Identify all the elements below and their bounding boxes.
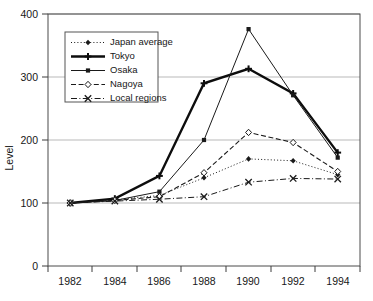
data-point-filled-diamond	[246, 156, 251, 162]
xtick-label-1984: 1984	[103, 275, 127, 287]
ytick-label-0: 0	[32, 260, 38, 272]
line-chart: 400 300 200 100 0 Level 1982 1984 1986 1…	[0, 0, 373, 301]
legend-label-local-regions: Local regions	[110, 92, 167, 103]
data-point-filled-square	[246, 27, 250, 31]
xtick-label-1990: 1990	[236, 275, 260, 287]
data-point-filled-square	[291, 93, 295, 97]
ytick-label-100: 100	[20, 197, 38, 209]
xtick-label-1994: 1994	[326, 275, 350, 287]
data-point-filled-diamond	[291, 158, 296, 164]
ytick-label-200: 200	[20, 134, 38, 146]
legend-label-nagoya: Nagoya	[110, 78, 143, 89]
xtick-label-1982: 1982	[58, 275, 82, 287]
data-point-open-diamond	[335, 168, 341, 174]
ytick-label-300: 300	[20, 71, 38, 83]
y-axis-title: Level	[3, 145, 15, 170]
legend-label-japan-average: Japan average	[110, 36, 173, 47]
legend: Japan average Tokyo Osaka Nagoya Local r…	[65, 32, 173, 103]
data-point-filled-square	[202, 138, 206, 142]
data-point-filled-square	[86, 68, 90, 72]
x-axis: 1982 1984 1986 1988 1990 1992 1994	[48, 266, 360, 287]
xtick-label-1992: 1992	[281, 275, 305, 287]
xtick-label-1986: 1986	[147, 275, 171, 287]
y-axis: 400 300 200 100 0	[20, 8, 48, 272]
legend-label-osaka: Osaka	[110, 64, 138, 75]
xtick-label-1988: 1988	[192, 275, 216, 287]
legend-label-tokyo: Tokyo	[110, 50, 135, 61]
data-point-open-diamond	[201, 170, 207, 176]
series-line	[70, 132, 337, 203]
data-point-filled-square	[336, 156, 340, 160]
chart-container: 400 300 200 100 0 Level 1982 1984 1986 1…	[0, 0, 373, 301]
ytick-label-400: 400	[20, 8, 38, 20]
data-point-open-diamond	[246, 129, 252, 135]
